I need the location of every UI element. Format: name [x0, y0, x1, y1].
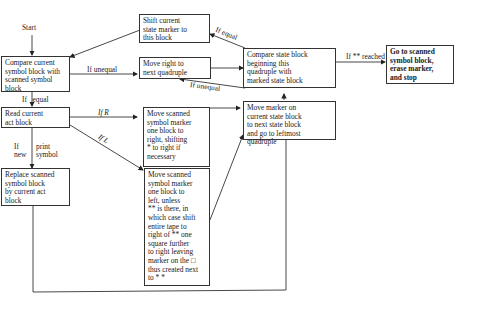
- go-to-stop-box: Go to scanned symbol block, erase marker…: [386, 45, 454, 84]
- read-act-block-box: Read current act block: [1, 107, 70, 128]
- compare-symbol-block-box: Compare current symbol block with scanne…: [1, 56, 70, 92]
- edge-label-if-equal-left: If equal: [22, 96, 48, 104]
- move-right-quadruple-box: Move right to next quadruple: [139, 57, 211, 79]
- compare-state-block-box: Compare state block beginning this quadr…: [243, 48, 336, 88]
- edge-label-if-new: If new: [14, 143, 26, 159]
- edge-label-print-symbol: print symbol: [36, 143, 58, 159]
- start-label: Start: [22, 24, 36, 32]
- move-marker-left-box: Move scanned symbol marker one block to …: [144, 168, 210, 286]
- replace-symbol-block-box: Replace scanned symbol block by current …: [1, 168, 70, 206]
- edge-label-if-unequal: If unequal: [87, 66, 117, 74]
- move-marker-right-box: Move scanned symbol marker one block to …: [143, 107, 210, 167]
- move-state-marker-box: Move marker on current state block to ne…: [243, 101, 336, 140]
- edge-label-if-reached: If ** reached: [346, 53, 385, 61]
- edge-label-if-r: If R: [98, 109, 109, 117]
- shift-state-marker-box: Shift current state marker to this block: [139, 14, 210, 43]
